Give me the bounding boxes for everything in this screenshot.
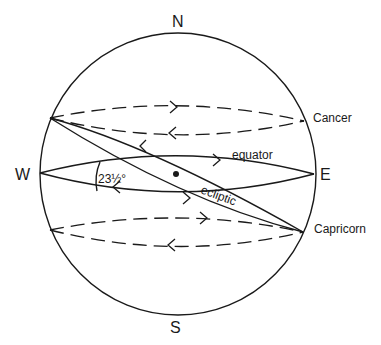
label-north: N [172,13,184,30]
label-east: E [320,166,331,183]
label-equator: equator [232,148,273,162]
label-south: S [170,319,181,336]
tropic-of-capricorn [50,212,303,251]
arrow-left-icon [169,127,176,139]
label-cancer: Cancer [313,111,352,125]
center-dot [173,171,179,177]
arrow-right-icon [213,154,220,166]
arrow-left-icon [168,239,175,251]
label-angle: 23½° [98,172,126,186]
arrow-right-icon [170,101,177,113]
celestial-sphere-diagram: N S W E Cancer Capricorn equator eclipti… [0,0,381,345]
label-west: W [15,166,31,183]
label-capricorn: Capricorn [314,222,366,236]
tropic-of-cancer [50,101,304,139]
arrow-right-icon [183,192,190,204]
